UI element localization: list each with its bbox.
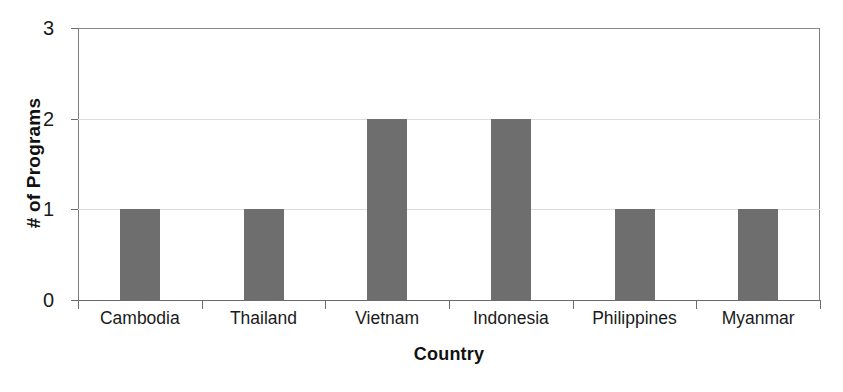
y-tick-label: 0 [14, 289, 54, 312]
plot-top-border [78, 28, 820, 29]
gridline [78, 119, 820, 120]
x-tick-label: Myanmar [696, 308, 820, 329]
x-tick-label: Philippines [573, 308, 697, 329]
y-tick-mark [71, 209, 78, 210]
bar [491, 119, 531, 300]
y-tick-label: 2 [14, 107, 54, 130]
y-tick-mark [71, 300, 78, 301]
gridline [78, 209, 820, 210]
bar [615, 209, 655, 300]
plot-area [78, 28, 820, 300]
x-tick-label: Indonesia [449, 308, 573, 329]
x-tick-label: Cambodia [78, 308, 202, 329]
bar [738, 209, 778, 300]
x-tick-label: Vietnam [325, 308, 449, 329]
x-tick-mark [820, 300, 821, 309]
y-tick-label: 1 [14, 198, 54, 221]
x-tick-label: Thailand [202, 308, 326, 329]
bar [367, 119, 407, 300]
x-axis-title: Country [78, 344, 820, 365]
y-axis-title: # of Programs [23, 63, 45, 263]
y-tick-mark [71, 28, 78, 29]
bar [120, 209, 160, 300]
bar-chart: # of Programs 0123 CambodiaThailandVietn… [0, 0, 843, 392]
plot-right-border [819, 28, 820, 300]
y-tick-label: 3 [14, 17, 54, 40]
y-tick-mark [71, 119, 78, 120]
bar [244, 209, 284, 300]
plot-left-axis [78, 28, 79, 300]
